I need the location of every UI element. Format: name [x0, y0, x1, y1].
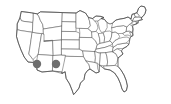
location-marker-arizona[interactable]: [33, 60, 41, 68]
state-texas: [62, 56, 90, 94]
state-north-dakota: [62, 13, 76, 22]
us-map-svg: [0, 0, 171, 104]
state-south-dakota: [62, 22, 76, 32]
state-wyoming: [43, 26, 62, 41]
state-kansas: [62, 40, 80, 49]
location-marker-new-mexico[interactable]: [52, 60, 60, 68]
state-nebraska: [62, 31, 80, 40]
state-minnesota: [76, 11, 90, 29]
us-map-figure: [0, 0, 171, 104]
